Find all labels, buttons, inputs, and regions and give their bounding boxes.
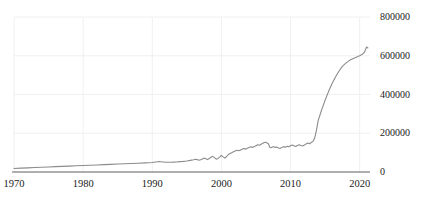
- gridlines: [14, 17, 370, 172]
- y-tick-label: 600000: [380, 50, 410, 61]
- x-tick-label: 2010: [261, 178, 321, 189]
- y-tick-label: 400000: [380, 89, 410, 100]
- y-tick-label: 0: [380, 166, 385, 177]
- x-tick-label: 1980: [53, 178, 113, 189]
- y-tick-label: 200000: [380, 127, 410, 138]
- x-tick-label: 2000: [191, 178, 251, 189]
- line-chart: 0200000400000600000800000 19701980199020…: [0, 0, 421, 199]
- chart-plot-area: [0, 0, 421, 199]
- y-tick-label: 800000: [380, 11, 410, 22]
- x-tick-label: 1970: [0, 178, 44, 189]
- series-value-path: [14, 47, 368, 168]
- x-tick-label: 1990: [122, 178, 182, 189]
- data-series-line: [14, 47, 368, 168]
- x-tick-label: 2020: [330, 178, 390, 189]
